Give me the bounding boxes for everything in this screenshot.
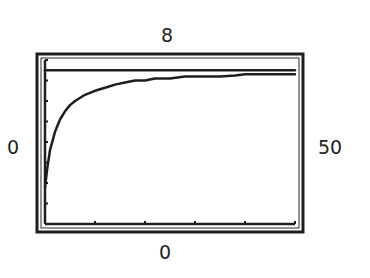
inner-frame bbox=[41, 58, 299, 228]
plot-area bbox=[0, 0, 370, 278]
series bbox=[45, 70, 295, 187]
axes bbox=[45, 60, 295, 224]
outer-frame bbox=[37, 54, 303, 232]
data-curve bbox=[45, 74, 295, 187]
